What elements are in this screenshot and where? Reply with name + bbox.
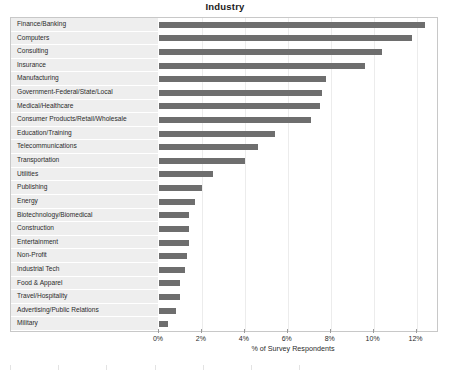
bar [159,294,180,300]
bar [159,103,320,109]
bar [159,22,425,28]
bar-row [159,32,437,46]
bar [159,212,189,218]
plot-area [159,18,437,331]
x-tick-label: 0% [153,335,163,342]
bar-row [159,45,437,59]
category-row-label: Manufacturing [11,72,158,86]
category-row-label: Travel/Hospitality [11,290,158,304]
bar-row [159,154,437,168]
x-tick-mark [201,329,202,333]
x-tick-mark [244,329,245,333]
bar [159,321,168,327]
category-label-text: Consulting [11,48,48,55]
category-row-label: Entertainment [11,236,158,250]
category-row-label: Industrial Tech [11,263,158,277]
category-label-text: Utilities [11,171,38,178]
ghost-tick [203,365,204,370]
bar [159,267,185,273]
x-tick-label: 8% [325,335,335,342]
bar [159,76,326,82]
category-row-label: Food & Apparel [11,277,158,291]
bar [159,226,189,232]
category-row-label: Education/Training [11,127,158,141]
bar-row [159,222,437,236]
x-tick-mark [373,329,374,333]
category-row-label: Government-Federal/State/Local [11,86,158,100]
category-row-label: Medical/Healthcare [11,100,158,114]
x-tick-label: 4% [239,335,249,342]
category-row-label: Insurance [11,59,158,73]
bar-row [159,113,437,127]
category-row-label: Military [11,317,158,331]
bar [159,35,412,41]
x-tick-label: 2% [196,335,206,342]
bar [159,280,180,286]
category-label-text: Finance/Banking [11,21,66,28]
category-row-label: Non-Profit [11,249,158,263]
ghost-tick [155,365,156,370]
bar [159,199,195,205]
bar [159,144,258,150]
bar-row [159,140,437,154]
bar [159,49,382,55]
bar-row [159,168,437,182]
category-row-label: Telecommunications [11,140,158,154]
category-label-text: Construction [11,225,54,232]
bar-row [159,181,437,195]
category-label-text: Transportation [11,157,59,164]
category-label-text: Education/Training [11,130,72,137]
category-label-text: Manufacturing [11,75,59,82]
plot-frame: Finance/BankingComputersConsultingInsura… [10,17,438,332]
x-tick-label: 6% [282,335,292,342]
bar-row [159,236,437,250]
bar [159,253,187,259]
category-row-label: Consumer Products/Retail/Wholesale [11,113,158,127]
category-label-text: Entertainment [11,239,58,246]
category-label-text: Industrial Tech [11,266,59,273]
category-label-text: Biotechnology/Biomedical [11,212,93,219]
category-row-label: Construction [11,222,158,236]
category-label-text: Telecommunications [11,143,77,150]
below-fold-ghost-ticks [0,360,450,372]
x-tick-mark [416,329,417,333]
category-row-label: Publishing [11,181,158,195]
bar-row [159,72,437,86]
category-label-text: Consumer Products/Retail/Wholesale [11,116,127,123]
x-tick-mark [158,329,159,333]
bar-row [159,290,437,304]
category-label-text: Computers [11,35,49,42]
industry-bar-chart: Industry Finance/BankingComputersConsult… [0,0,450,372]
bar [159,171,213,177]
bar [159,240,189,246]
bar-row [159,263,437,277]
bar [159,308,176,314]
category-row-label: Biotechnology/Biomedical [11,209,158,223]
x-tick-mark [330,329,331,333]
category-label-text: Non-Profit [11,252,47,259]
bar-row [159,18,437,32]
category-row-label: Utilities [11,168,158,182]
bar-row [159,86,437,100]
bar-row [159,304,437,318]
category-label-text: Travel/Hospitality [11,293,67,300]
x-axis-title: % of Survey Respondents [148,344,438,353]
ghost-tick [58,365,59,370]
category-row-label: Advertising/Public Relations [11,304,158,318]
bar [159,90,322,96]
category-row-label: Energy [11,195,158,209]
bar-row [159,127,437,141]
x-tick-label: 10% [366,335,380,342]
bar [159,185,202,191]
x-axis: 0%2%4%6%8%10%12% [158,332,438,333]
x-tick-label: 12% [409,335,423,342]
category-label-text: Food & Apparel [11,280,62,287]
category-label-text: Advertising/Public Relations [11,307,99,314]
x-tick-mark [287,329,288,333]
bar-row [159,59,437,73]
bar-row [159,277,437,291]
bar [159,131,275,137]
bar [159,117,311,123]
ghost-tick [10,365,11,370]
category-row-label: Transportation [11,154,158,168]
